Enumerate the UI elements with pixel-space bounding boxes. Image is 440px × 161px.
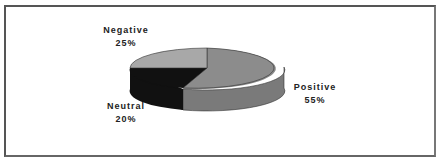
label-neutral-value: 20%: [96, 113, 156, 126]
label-neutral-name: Neutral: [96, 100, 156, 113]
pie-chart: [0, 0, 440, 161]
label-positive-value: 55%: [284, 94, 346, 107]
label-neutral: Neutral 20%: [96, 100, 156, 126]
label-negative: Negative 25%: [96, 24, 156, 50]
label-positive-name: Positive: [284, 81, 346, 94]
label-negative-name: Negative: [96, 24, 156, 37]
label-positive: Positive 55%: [284, 81, 346, 107]
slice-negative-top: [130, 48, 207, 68]
label-negative-value: 25%: [96, 37, 156, 50]
